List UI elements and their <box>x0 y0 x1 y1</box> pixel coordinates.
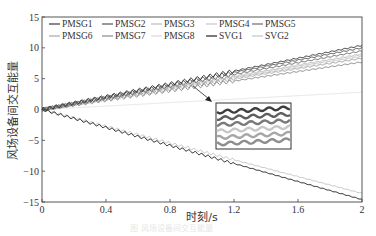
legend-item-pmsg2: PMSG2 <box>102 19 146 29</box>
legend-label: PMSG5 <box>265 19 296 29</box>
legend-label: PMSG7 <box>115 31 146 41</box>
plot-lines <box>42 45 362 199</box>
legend-item-pmsg8: PMSG8 <box>151 31 195 41</box>
legend-item-svg2: SVG2 <box>252 31 289 41</box>
legend-label: PMSG6 <box>62 31 93 41</box>
legend-item-pmsg4: PMSG4 <box>206 19 250 29</box>
y-axis-title: 风场设备间交互能量 <box>6 61 20 160</box>
x-tick-label: 0.8 <box>164 204 177 215</box>
legend-label: PMSG8 <box>164 31 195 41</box>
x-tick-label: 0 <box>40 204 45 215</box>
x-tick-label: 1.6 <box>292 204 305 215</box>
legend-label: PMSG1 <box>62 19 93 29</box>
plot-frame <box>42 17 362 202</box>
legend-label: PMSG3 <box>164 19 195 29</box>
y-tick-label: −10 <box>23 166 39 177</box>
legend-item-pmsg3: PMSG3 <box>151 19 195 29</box>
y-tick-label: −15 <box>23 197 39 208</box>
legend-label: SVG1 <box>219 31 243 41</box>
series-line-svg2 <box>42 109 362 193</box>
x-tick-label: 1.2 <box>228 204 241 215</box>
legend-item-pmsg7: PMSG7 <box>102 31 146 41</box>
y-tick-label: 5 <box>34 73 39 84</box>
y-tick-label: 10 <box>29 42 39 53</box>
x-tick-label: 0.4 <box>100 204 113 215</box>
energy-interaction-chart: 151050−5−10−15 00.40.81.21.62 PMSG1PMSG2… <box>0 0 376 236</box>
inset-zoom-box <box>193 86 291 149</box>
y-tick-label: 0 <box>34 104 39 115</box>
legend-item-pmsg5: PMSG5 <box>252 19 296 29</box>
legend: PMSG1PMSG2PMSG3PMSG4PMSG5PMSG6PMSG7PMSG8… <box>49 19 296 41</box>
x-tick-label: 2 <box>360 204 365 215</box>
y-tick-label: 15 <box>29 12 39 23</box>
figure-caption: 图 风场设备间交互能量 <box>130 222 213 233</box>
legend-label: PMSG4 <box>219 19 250 29</box>
legend-item-pmsg6: PMSG6 <box>49 31 93 41</box>
legend-label: SVG2 <box>265 31 289 41</box>
y-tick-label: −5 <box>28 135 39 146</box>
legend-label: PMSG2 <box>115 19 146 29</box>
legend-item-svg1: SVG1 <box>206 31 243 41</box>
legend-item-pmsg1: PMSG1 <box>49 19 93 29</box>
